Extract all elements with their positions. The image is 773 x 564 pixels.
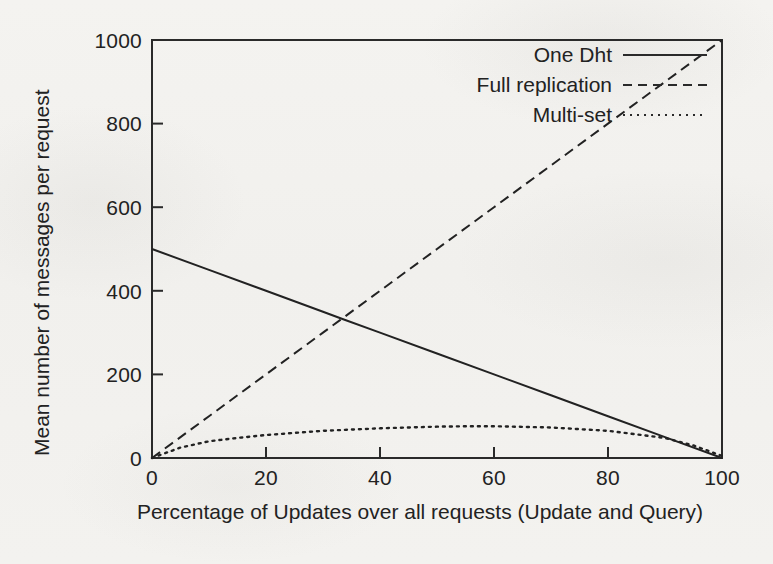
data-series-layer bbox=[152, 40, 722, 458]
legend-sample-solid bbox=[622, 49, 708, 61]
x-tick-label-20: 20 bbox=[226, 466, 306, 490]
x-tick-label-0: 0 bbox=[112, 466, 192, 490]
x-tick-label-60: 60 bbox=[454, 466, 534, 490]
x-axis-ticks bbox=[152, 447, 722, 458]
legend-entry-multi-set: Multi-set bbox=[398, 104, 708, 125]
chart-figure: 0 200 400 600 800 1000 0 20 40 60 80 100… bbox=[0, 0, 773, 564]
series-line-dashed bbox=[152, 40, 722, 458]
x-tick-label-100: 100 bbox=[682, 466, 762, 490]
legend-label-multi-set: Multi-set bbox=[533, 104, 612, 125]
x-axis-title: Percentage of Updates over all requests … bbox=[80, 500, 760, 524]
legend-sample-dotted bbox=[622, 109, 708, 121]
legend-label-full-replication: Full replication bbox=[477, 74, 612, 95]
x-tick-label-40: 40 bbox=[340, 466, 420, 490]
legend-entry-one-dht: One Dht bbox=[398, 44, 708, 65]
legend-label-one-dht: One Dht bbox=[534, 44, 612, 65]
y-axis-title: Mean number of messages per request bbox=[30, 89, 54, 456]
series-line-dotted bbox=[152, 426, 722, 458]
y-tick-label-1000: 1000 bbox=[30, 29, 142, 53]
x-tick-label-80: 80 bbox=[568, 466, 648, 490]
legend-sample-dashed bbox=[622, 79, 708, 91]
legend-entry-full-replication: Full replication bbox=[398, 74, 708, 95]
